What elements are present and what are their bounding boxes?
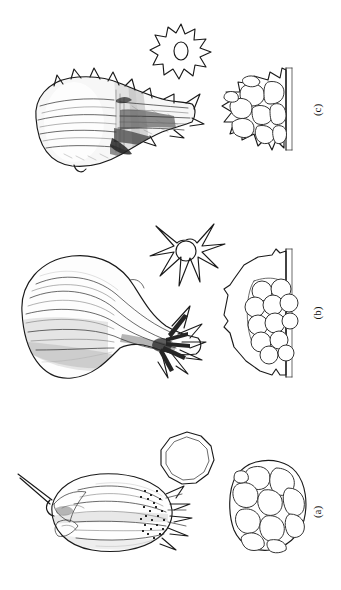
panel-a-apical-polygon-view [156, 428, 218, 490]
panel-label-b: (b) [311, 304, 323, 322]
panel-a-cellular-cross-section [222, 456, 312, 556]
panel-c: (c) [0, 0, 341, 195]
panel-c-apical-star-view [148, 21, 214, 83]
panel-c-lateral-habit-view [24, 66, 204, 182]
illustration-plate: (c) [0, 0, 341, 590]
panel-a: (a) [0, 400, 341, 590]
panel-b: (b) [0, 195, 341, 400]
panel-label-c: (c) [311, 101, 323, 119]
panel-c-cellular-cross-section [214, 62, 300, 166]
panel-label-a: (a) [311, 503, 323, 521]
panel-b-cellular-cross-section [214, 245, 300, 385]
